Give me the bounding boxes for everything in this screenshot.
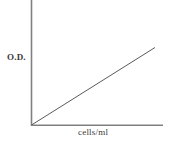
plot-area bbox=[0, 0, 179, 148]
data-series-line bbox=[32, 48, 156, 126]
chart-figure: O.D. cells/ml bbox=[0, 0, 179, 148]
x-axis-label: cells/ml bbox=[78, 127, 108, 137]
y-axis-label: O.D. bbox=[7, 52, 26, 62]
